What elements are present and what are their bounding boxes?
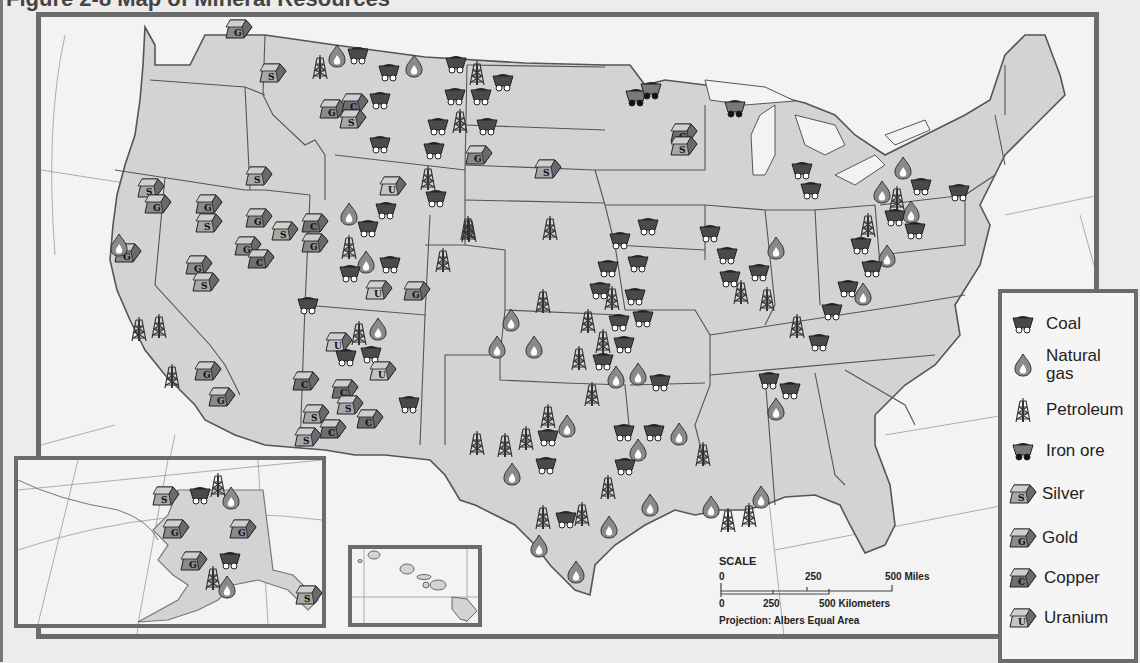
ore-car-icon xyxy=(723,98,747,122)
scale-miles-250: 250 xyxy=(805,571,822,582)
svg-text:G: G xyxy=(238,528,246,538)
ingot-g-icon: G xyxy=(1008,525,1038,551)
compass-rose: N xyxy=(1087,173,1099,225)
coal-car-icon xyxy=(368,90,392,114)
ingot-s-icon: S xyxy=(151,485,181,511)
legend-item-coal: Coal xyxy=(1008,311,1081,337)
flame-icon xyxy=(503,462,521,490)
flame-icon xyxy=(641,493,659,521)
oil-derrick-icon xyxy=(599,474,617,504)
oil-derrick-icon xyxy=(583,381,601,411)
legend-item-uranium: U Uranium xyxy=(1008,605,1108,631)
coal-car-icon xyxy=(334,347,358,371)
oil-derrick-icon xyxy=(468,430,486,460)
ingot-s-icon: S xyxy=(293,426,323,452)
oil-derrick-icon xyxy=(573,501,591,531)
legend-item-natural-gas: Naturalgas xyxy=(1008,347,1101,383)
svg-text:G: G xyxy=(474,154,482,164)
svg-text:G: G xyxy=(189,560,197,570)
svg-text:S: S xyxy=(254,175,261,185)
ingot-s-icon: S xyxy=(294,584,324,610)
coal-car-icon xyxy=(491,72,515,96)
ingot-g-icon: G xyxy=(207,386,237,412)
svg-text:G: G xyxy=(171,528,179,538)
svg-text:C: C xyxy=(365,418,372,428)
svg-text:G: G xyxy=(328,108,336,118)
ingot-u-icon: U xyxy=(378,175,408,201)
projection-note: Projection: Albers Equal Area xyxy=(719,615,859,626)
svg-text:U: U xyxy=(1018,617,1026,627)
coal-car-icon xyxy=(623,286,647,310)
coal-car-icon xyxy=(947,182,971,206)
svg-text:S: S xyxy=(161,495,168,505)
svg-text:S: S xyxy=(679,145,686,155)
legend-item-petroleum: Petroleum xyxy=(1008,397,1123,423)
coal-car-icon xyxy=(636,216,660,240)
svg-text:G: G xyxy=(310,242,318,252)
ingot-g-icon: G xyxy=(224,18,254,44)
ore-car-icon xyxy=(1008,438,1038,464)
ingot-s-icon: S xyxy=(1008,481,1038,507)
ingot-c-icon: C xyxy=(1008,565,1038,591)
ingot-c-icon: C xyxy=(246,248,276,274)
alaska-inset-map: SGGGS xyxy=(14,456,326,628)
flame-icon xyxy=(328,44,346,72)
ingot-u-icon: U xyxy=(1008,605,1038,631)
svg-text:G: G xyxy=(153,203,161,213)
scale-heading: SCALE xyxy=(719,555,756,567)
coal-car-icon xyxy=(444,54,468,78)
svg-text:C: C xyxy=(328,428,335,438)
svg-text:G: G xyxy=(1018,537,1026,547)
coal-car-icon xyxy=(698,223,722,247)
svg-text:S: S xyxy=(280,230,287,240)
coal-car-icon xyxy=(426,116,450,140)
coal-car-icon xyxy=(469,86,493,110)
coal-car-icon xyxy=(536,427,560,451)
svg-text:U: U xyxy=(378,370,386,380)
coal-car-icon xyxy=(596,258,620,282)
oil-derrick-icon xyxy=(130,316,148,346)
oil-derrick-icon xyxy=(534,288,552,318)
coal-car-icon xyxy=(807,332,831,356)
map-legend: Coal Naturalgas Petroleum Iron ore S Sil… xyxy=(998,289,1138,663)
legend-item-silver: S Silver xyxy=(1008,481,1085,507)
svg-text:C: C xyxy=(310,222,317,232)
coal-car-icon xyxy=(909,176,933,200)
flame-icon xyxy=(525,335,543,363)
oil-derrick-icon xyxy=(570,345,588,375)
coal-car-icon xyxy=(475,116,499,140)
oil-derrick-icon xyxy=(434,247,452,277)
coal-car-icon xyxy=(443,86,467,110)
ingot-u-icon: U xyxy=(364,279,394,305)
hawaii-inset-map xyxy=(348,545,482,627)
coal-car-icon xyxy=(346,45,370,69)
coal-car-icon xyxy=(612,334,636,358)
flame-icon xyxy=(702,495,720,523)
svg-text:G: G xyxy=(412,290,420,300)
svg-text:S: S xyxy=(311,413,318,423)
svg-text:S: S xyxy=(1018,493,1025,503)
coal-car-icon xyxy=(534,455,558,479)
svg-text:G: G xyxy=(234,28,242,38)
oil-derrick-icon xyxy=(788,313,806,343)
flame-icon xyxy=(369,317,387,345)
oil-derrick-icon xyxy=(719,507,737,537)
ore-car-icon xyxy=(639,80,663,104)
flame-icon xyxy=(488,335,506,363)
flame-icon xyxy=(530,534,548,562)
flame-icon xyxy=(670,422,688,450)
oil-derrick-icon xyxy=(732,279,750,309)
flame-icon xyxy=(218,575,236,603)
oil-derrick-icon xyxy=(163,363,181,393)
legend-item-copper: C Copper xyxy=(1008,565,1100,591)
svg-text:C: C xyxy=(301,380,308,390)
svg-text:G: G xyxy=(254,217,262,227)
coal-car-icon xyxy=(747,262,771,286)
oil-derrick-icon xyxy=(1008,397,1038,423)
svg-text:G: G xyxy=(217,396,225,406)
svg-text:U: U xyxy=(374,289,382,299)
flame-icon xyxy=(502,308,520,336)
ingot-c-icon: C xyxy=(355,408,385,434)
oil-derrick-icon xyxy=(758,286,776,316)
svg-text:S: S xyxy=(304,594,311,604)
